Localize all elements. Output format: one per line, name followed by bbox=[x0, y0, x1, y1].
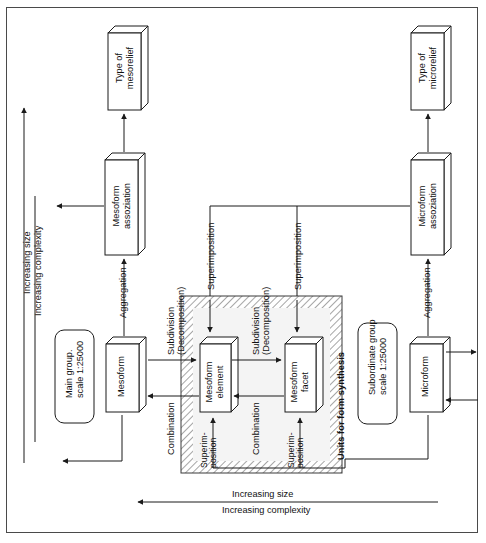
type-of-microrelief-line1: Type of bbox=[417, 53, 427, 83]
diagram-frame bbox=[6, 7, 478, 533]
tag-label-main-group: Main group. scale 1:25000 bbox=[64, 352, 86, 398]
tag-label-subordinate-group: Subordinate group scale 1:25000 bbox=[367, 349, 389, 395]
box-label-type-of-mesorelief: Type of mesorelief bbox=[114, 45, 136, 91]
axis-left-label-size: Increasing size bbox=[22, 231, 33, 294]
subordinate-group-line1: Subordinate group bbox=[367, 319, 377, 395]
label-superimposition-left-top: Superimposition bbox=[206, 223, 217, 290]
label-combination-left: Combination bbox=[166, 402, 177, 455]
box-label-mesoform: Mesoform bbox=[116, 354, 127, 400]
label-aggregation-right: Aggregation bbox=[422, 267, 433, 318]
main-group-line2: scale 1:25000 bbox=[75, 341, 85, 398]
label-superimposition-right-top: Superimposition bbox=[293, 223, 304, 290]
mesoform-assoziation-line2: assoziation bbox=[122, 183, 132, 229]
mesoform-element-line1: Mesoform bbox=[204, 362, 214, 403]
mesoform-facet-line1: Mesoform bbox=[289, 362, 299, 403]
mesoform-line1: Mesoform bbox=[116, 356, 126, 397]
label-decomposition-right: (Decomposition) bbox=[261, 287, 272, 355]
diagram-canvas: Increasing size Increasing complexity In… bbox=[0, 0, 486, 543]
type-of-mesorelief-line2: mesorelief bbox=[125, 47, 135, 89]
subordinate-group-line2: scale 1:25000 bbox=[378, 338, 388, 395]
microform-assoziation-line2: assoziation bbox=[428, 183, 438, 229]
label-combination-right: Combination bbox=[251, 402, 262, 455]
mesoform-facet-line2: facet bbox=[300, 372, 310, 392]
main-group-line1: Main group. bbox=[64, 350, 74, 399]
subdivision-right-line1: Subdivision bbox=[251, 307, 261, 355]
label-superimposition-facet-line2: position bbox=[295, 438, 305, 468]
subdivision-left-line2: (Decomposition) bbox=[176, 287, 186, 355]
box-label-type-of-microrelief: Type of microrelief bbox=[417, 45, 439, 91]
box-label-mesoform-element: Mesoform element bbox=[204, 359, 226, 405]
label-decomposition-left: (Decomposition) bbox=[176, 287, 187, 355]
region-label-units-for-form-synthesis: Units for form synthesis bbox=[336, 352, 347, 460]
box-label-microform: Microform bbox=[420, 354, 431, 400]
box-label-mesoform-assoziation: Mesoform assoziation bbox=[111, 183, 133, 229]
subdivision-left-line1: Subdivision bbox=[166, 307, 176, 355]
mesoform-element-line2: element bbox=[215, 366, 225, 399]
type-of-mesorelief-line1: Type of bbox=[114, 53, 124, 83]
type-of-microrelief-line2: microrelief bbox=[428, 47, 438, 89]
microform-assoziation-line1: Microform bbox=[417, 186, 427, 227]
box-label-mesoform-facet: Mesoform facet bbox=[289, 359, 311, 405]
label-superimposition-element-line2: position bbox=[208, 438, 218, 468]
box-label-microform-assoziation: Microform assoziation bbox=[417, 183, 439, 229]
axis-bottom-label-size: Increasing size bbox=[232, 489, 293, 500]
axis-left-label-complexity: Increasing complexity bbox=[33, 226, 44, 316]
label-aggregation-left: Aggregation bbox=[118, 267, 129, 318]
microform-line1: Microform bbox=[420, 356, 430, 397]
mesoform-assoziation-line1: Mesoform bbox=[111, 186, 121, 227]
axis-bottom-label-complexity: Increasing complexity bbox=[222, 505, 310, 516]
subdivision-right-line2: (Decomposition) bbox=[261, 287, 271, 355]
